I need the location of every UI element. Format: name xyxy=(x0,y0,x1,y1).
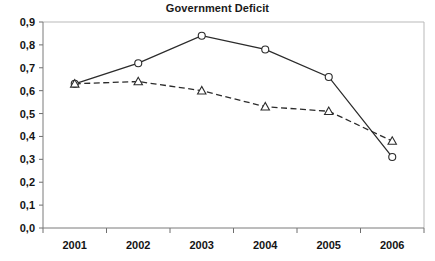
y-axis-tick-label: 0,0 xyxy=(20,222,35,234)
y-axis-tick-marks xyxy=(39,22,43,228)
chart-container: Government Deficit 0,90,80,70,60,50,40,3… xyxy=(0,0,435,261)
chart-plot-area: 0,90,80,70,60,50,40,30,20,10,0 200120022… xyxy=(0,0,435,261)
x-axis-tick-label: 2002 xyxy=(126,239,150,251)
x-axis-tick-label: 2006 xyxy=(380,239,404,251)
y-axis-tick-label: 0,7 xyxy=(20,62,35,74)
x-axis-tick-label: 2005 xyxy=(317,239,341,251)
chart-series-markers xyxy=(71,32,397,160)
x-axis-tick-label: 2001 xyxy=(63,239,87,251)
data-point-marker-circle xyxy=(389,154,396,161)
y-axis-tick-label: 0,3 xyxy=(20,153,35,165)
x-axis-tick-labels: 200120022003200420052006 xyxy=(63,239,405,251)
y-axis-tick-label: 0,1 xyxy=(20,199,35,211)
data-point-marker-triangle xyxy=(388,137,396,144)
data-point-marker-circle xyxy=(135,60,142,67)
y-axis-tick-label: 0,4 xyxy=(20,130,36,142)
y-axis-tick-label: 0,5 xyxy=(20,108,35,120)
y-axis-tick-label: 0,6 xyxy=(20,85,35,97)
x-axis-tick-marks xyxy=(43,228,424,233)
y-axis-tick-labels: 0,90,80,70,60,50,40,30,20,10,0 xyxy=(20,16,36,234)
x-axis-tick-label: 2004 xyxy=(253,239,278,251)
data-point-marker-circle xyxy=(262,46,269,53)
data-point-marker-circle xyxy=(325,73,332,80)
series-line-dashed xyxy=(75,82,393,142)
y-axis-tick-label: 0,2 xyxy=(20,176,35,188)
x-axis-tick-label: 2003 xyxy=(190,239,214,251)
series-line-solid xyxy=(75,36,393,157)
data-point-marker-triangle xyxy=(325,107,333,114)
y-axis-tick-label: 0,9 xyxy=(20,16,35,28)
data-point-marker-circle xyxy=(198,32,205,39)
chart-series-lines xyxy=(75,36,393,157)
y-axis-tick-label: 0,8 xyxy=(20,39,35,51)
